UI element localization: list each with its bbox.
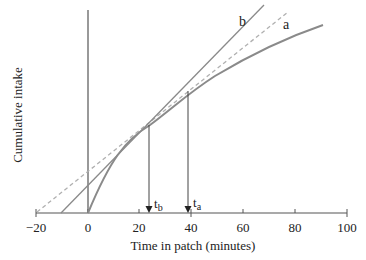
- line-b-label: b: [239, 14, 246, 29]
- line-a-label: a: [283, 17, 290, 32]
- tick-label: 40: [185, 220, 198, 235]
- patch-foraging-diagram: b a tb ta −20 0 20 40 60 80 100 Time in …: [0, 0, 366, 260]
- y-axis-title: Cumulative intake: [10, 67, 25, 163]
- gain-curve: [88, 25, 323, 213]
- tick-label: 20: [133, 220, 146, 235]
- ta-marker: [185, 91, 192, 213]
- x-axis: [36, 209, 347, 217]
- x-axis-title: Time in patch (minutes): [131, 238, 256, 253]
- tb-marker: [146, 125, 153, 213]
- ta-label: ta: [193, 195, 202, 212]
- tick-label: 60: [237, 220, 250, 235]
- x-tick-labels: −20 0 20 40 60 80 100: [26, 220, 357, 235]
- tick-label: 100: [337, 220, 357, 235]
- tick-label: 80: [289, 220, 302, 235]
- tb-label: tb: [154, 196, 163, 213]
- tick-label: −20: [26, 220, 46, 235]
- tangent-line-a: [37, 12, 288, 212]
- tangent-line-b: [61, 5, 264, 213]
- tick-label: 0: [85, 220, 92, 235]
